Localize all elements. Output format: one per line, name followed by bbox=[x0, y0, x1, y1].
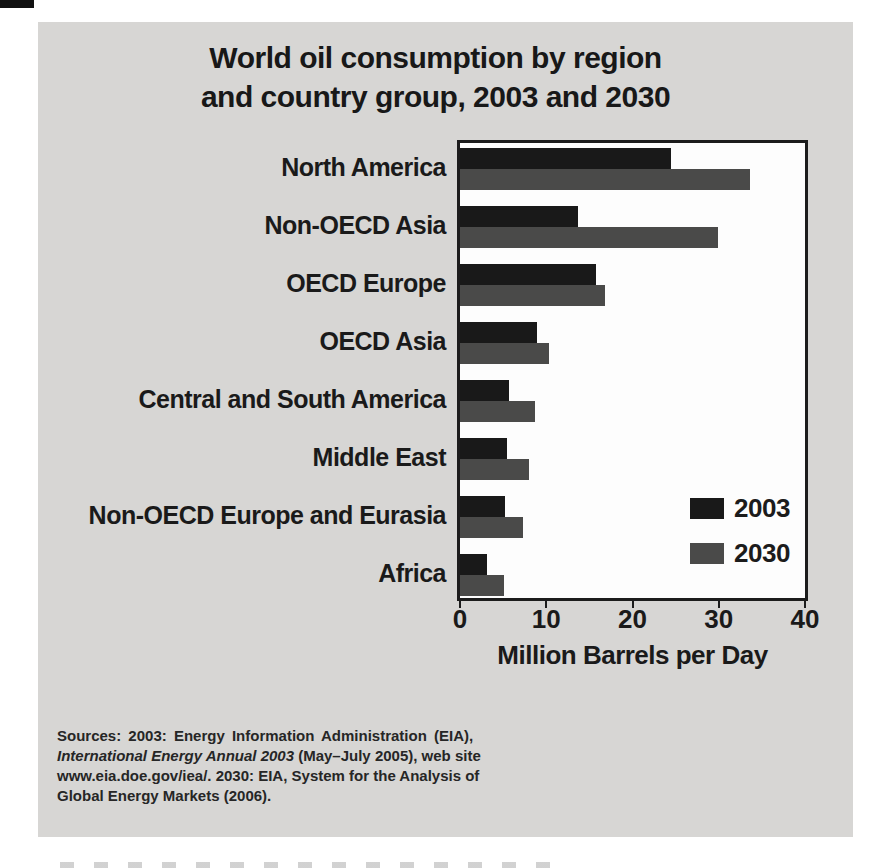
x-tick-label: 10 bbox=[506, 604, 586, 635]
bar-2030 bbox=[460, 517, 523, 538]
category-label: Non-OECD Asia bbox=[38, 210, 446, 240]
sources-line-2: International Energy Annual 2003 (May–Ju… bbox=[57, 746, 527, 766]
sources-publication-title: International Energy Annual 2003 bbox=[57, 747, 294, 764]
figure-panel: World oil consumption by region and coun… bbox=[38, 22, 853, 837]
bar-2030 bbox=[460, 285, 605, 306]
bar-2003 bbox=[460, 554, 487, 575]
bar-2003 bbox=[460, 438, 507, 459]
bar-2030 bbox=[460, 575, 504, 596]
sources-line-3: www.eia.doe.gov/iea/. 2030: EIA, System … bbox=[57, 766, 527, 786]
x-tick-label: 0 bbox=[420, 604, 500, 635]
bar-2003 bbox=[460, 380, 509, 401]
legend-label-2003: 2003 bbox=[734, 493, 790, 524]
bar-2003 bbox=[460, 322, 537, 343]
legend-row-2003: 2003 bbox=[690, 493, 790, 524]
legend-row-2030: 2030 bbox=[690, 538, 790, 569]
bar-2030 bbox=[460, 227, 718, 248]
plot-area: 2003 2030 bbox=[457, 140, 808, 601]
legend-label-2030: 2030 bbox=[734, 538, 790, 569]
x-tick-label: 30 bbox=[679, 604, 759, 635]
category-label: OECD Europe bbox=[38, 268, 446, 298]
category-label: OECD Asia bbox=[38, 326, 446, 356]
x-tick-label: 20 bbox=[593, 604, 673, 635]
bar-2030 bbox=[460, 459, 529, 480]
sources-line-2-rest: (May–July 2005), web site bbox=[294, 747, 481, 764]
category-label: Central and South America bbox=[38, 384, 446, 414]
bar-2003 bbox=[460, 496, 505, 517]
x-axis-title: Million Barrels per Day bbox=[460, 640, 805, 671]
category-labels: North AmericaNon-OECD AsiaOECD EuropeOEC… bbox=[38, 22, 446, 837]
sources-line-4: Global Energy Markets (2006). bbox=[57, 786, 527, 806]
bar-2003 bbox=[460, 264, 596, 285]
sources-note: Sources: 2003: Energy Information Admini… bbox=[57, 726, 527, 806]
bar-2003 bbox=[460, 148, 671, 169]
category-label: Non-OECD Europe and Eurasia bbox=[38, 500, 446, 530]
category-label: North America bbox=[38, 152, 446, 182]
legend-swatch-2003 bbox=[690, 498, 724, 519]
bar-2030 bbox=[460, 169, 750, 190]
category-label: Africa bbox=[38, 558, 446, 588]
scan-artifact-topleft bbox=[0, 0, 34, 8]
category-label: Middle East bbox=[38, 442, 446, 472]
x-tick-label: 40 bbox=[765, 604, 845, 635]
bar-2030 bbox=[460, 343, 549, 364]
sources-line-1: Sources: 2003: Energy Information Admini… bbox=[57, 726, 527, 746]
bar-2003 bbox=[460, 206, 578, 227]
bar-2030 bbox=[460, 401, 535, 422]
page-crop-artifact bbox=[60, 862, 560, 868]
legend-swatch-2030 bbox=[690, 543, 724, 564]
